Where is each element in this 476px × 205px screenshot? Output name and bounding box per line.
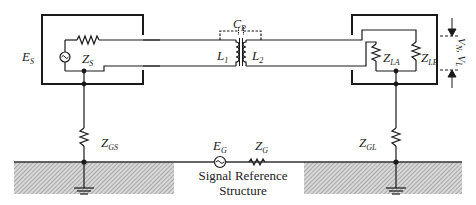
caption-line2: Structure [219, 183, 267, 198]
zgs-resistor [80, 128, 88, 146]
arrow-down-icon [448, 29, 456, 36]
label-zgl: ZGL [359, 135, 377, 152]
load-a-resistor [372, 44, 380, 61]
label-vn-vl: VN, VL [454, 38, 468, 67]
source-enclosure [42, 15, 143, 84]
label-es: ES [21, 49, 34, 66]
ground-emf-icon [215, 157, 226, 168]
label-cp: CP [233, 17, 246, 33]
label-l1: L1 [216, 48, 228, 65]
parasitic-capacitance [220, 31, 239, 40]
caption-line1: Signal Reference [198, 168, 287, 183]
cable [143, 40, 352, 66]
load-b-resistor [412, 42, 420, 60]
zgl-resistor [392, 128, 400, 146]
arrow-up-icon [448, 70, 456, 77]
primary-coil-icon [236, 40, 239, 66]
source-emf-icon [60, 52, 70, 62]
label-l2: L2 [251, 48, 263, 65]
label-zg: ZG [255, 138, 268, 155]
secondary-coil-icon [243, 40, 246, 66]
label-zgs: ZGS [101, 135, 118, 152]
ground-plane-right [304, 162, 462, 194]
label-zs: ZS [82, 51, 93, 68]
circuit-diagram: ES ZS CP L1 L2 ZLA ZLB VN, VL ZGS ZGL EG… [0, 0, 476, 205]
ground-plane-left [14, 162, 174, 194]
label-eg: EG [212, 138, 227, 155]
label-zlb: ZLB [421, 50, 438, 67]
source-impedance-resistor [77, 36, 99, 44]
label-zla: ZLA [383, 50, 400, 67]
